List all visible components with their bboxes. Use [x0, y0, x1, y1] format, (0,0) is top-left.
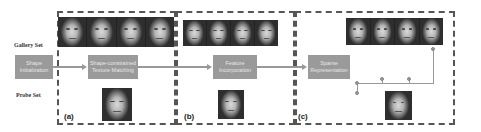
connector-line — [53, 66, 83, 68]
gallery-face — [346, 18, 371, 45]
feature-incorporation-box: Feature Incorporation — [213, 55, 257, 79]
gallery-face — [207, 20, 231, 46]
gallery-face — [420, 18, 444, 45]
gallery-face — [146, 17, 174, 47]
gallery-face — [255, 20, 278, 46]
arrow-right-icon — [82, 64, 87, 70]
section-b-label: (b) — [184, 112, 194, 121]
gallery-face — [58, 17, 87, 47]
gallery-faces-b — [183, 20, 278, 46]
section-a-label: (a) — [64, 112, 74, 121]
arrow-right-icon — [207, 64, 212, 70]
tree-vertical-line — [433, 49, 434, 84]
probe-face — [218, 90, 244, 119]
tree-node — [431, 47, 435, 51]
probe-face-a — [102, 88, 132, 121]
gallery-face — [87, 17, 116, 47]
tree-node — [380, 77, 384, 81]
tree-node — [355, 81, 359, 85]
gallery-face — [231, 20, 255, 46]
tree-node — [407, 77, 411, 81]
probe-face-c — [385, 91, 412, 120]
texture-matching-box: Shape-constrained Texture Matching — [88, 55, 138, 79]
gallery-faces-c — [346, 18, 443, 45]
gallery-face — [183, 20, 207, 46]
gallery-face — [371, 18, 396, 45]
probe-set-label: Probe Set — [16, 92, 41, 98]
tree-horizontal-line — [357, 83, 434, 84]
sparse-representation-box: Sparse Representation — [308, 55, 350, 79]
connector-line — [257, 66, 303, 68]
gallery-faces-a — [58, 17, 174, 47]
tree-node — [355, 91, 359, 95]
gallery-face — [117, 17, 146, 47]
gallery-set-label: Gallery Set — [14, 42, 43, 48]
section-c-label: (c) — [298, 112, 308, 121]
shape-initialization-box: Shape Initialization — [15, 55, 53, 79]
probe-face-b — [218, 90, 244, 119]
gallery-face — [395, 18, 420, 45]
probe-face — [102, 88, 132, 121]
arrow-right-icon — [302, 64, 307, 70]
probe-face — [385, 91, 412, 120]
connector-line — [138, 66, 208, 68]
